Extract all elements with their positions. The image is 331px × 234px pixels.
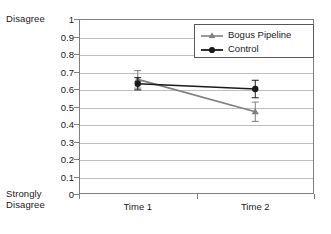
chart-legend: Bogus Pipeline Control [194, 24, 314, 58]
y-tick-label: 0.6 [0, 84, 79, 95]
gridline [80, 108, 313, 109]
chart-container: Disagree Strongly Disagree 10.90.80.70.6… [0, 0, 331, 234]
gridline [80, 73, 313, 74]
y-tick-label: 0.9 [0, 31, 79, 42]
gridline [80, 90, 313, 91]
gridline [80, 160, 313, 161]
y-tick-label: 0.7 [0, 66, 79, 77]
y-tick-label: 1 [0, 14, 79, 25]
gridline [80, 178, 313, 179]
x-tick-label: Time 1 [123, 201, 152, 212]
y-axis-tick-labels: 10.90.80.70.60.50.40.30.20.10 [0, 0, 79, 234]
legend-marker-circle-icon [199, 42, 225, 54]
legend-item-control: Control [199, 41, 313, 55]
gridline [80, 125, 313, 126]
y-tick-label: 0.2 [0, 154, 79, 165]
gridline [80, 143, 313, 144]
y-tick-label: 0 [0, 189, 79, 200]
legend-label-control: Control [228, 43, 259, 54]
y-tick-label: 0.3 [0, 136, 79, 147]
x-tick-mark [314, 194, 315, 199]
x-tick-mark [197, 194, 198, 199]
y-tick-label: 0.8 [0, 49, 79, 60]
legend-marker-triangle-icon [199, 28, 225, 40]
x-tick-label: Time 2 [241, 201, 270, 212]
legend-item-bogus-pipeline: Bogus Pipeline [199, 27, 313, 41]
x-tick-mark [79, 194, 80, 199]
legend-label-bogus-pipeline: Bogus Pipeline [228, 29, 291, 40]
y-tick-label: 0.5 [0, 101, 79, 112]
y-tick-label: 0.4 [0, 119, 79, 130]
y-tick-label: 0.1 [0, 171, 79, 182]
